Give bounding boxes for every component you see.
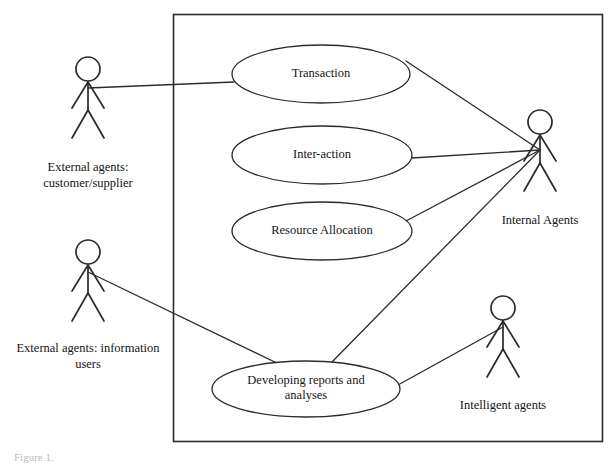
association-line-resource-allocation-to-internal xyxy=(406,150,540,221)
actor-arm-left-external-information-users xyxy=(72,265,88,291)
actor-leg-right-internal-agents xyxy=(540,163,556,191)
actor-leg-left-external-customer-supplier xyxy=(72,110,88,138)
actor-arm-right-external-customer-supplier xyxy=(88,82,104,108)
actor-head-intelligent-agents xyxy=(491,296,515,320)
actor-intelligent-agents[interactable] xyxy=(487,296,519,377)
association-line-ext-customer-to-transaction xyxy=(88,82,234,88)
actor-head-internal-agents xyxy=(528,110,552,134)
actor-head-external-information-users xyxy=(76,240,100,264)
use-case-ellipse-resource-allocation[interactable] xyxy=(232,202,412,260)
figure-caption: Figure 1. xyxy=(14,451,54,463)
actor-leg-left-internal-agents xyxy=(524,163,540,191)
association-line-ext-info-users-to-developing-reports xyxy=(88,272,283,366)
use-case-ellipse-interaction[interactable] xyxy=(232,126,412,184)
actor-leg-right-intelligent-agents xyxy=(503,349,519,377)
actor-leg-left-intelligent-agents xyxy=(487,349,503,377)
actor-leg-left-external-information-users xyxy=(72,293,88,321)
use-case-ellipse-developing-reports[interactable] xyxy=(212,361,400,417)
actor-arm-right-intelligent-agents xyxy=(503,321,519,347)
actor-external-information-users[interactable] xyxy=(72,240,104,321)
actor-arm-right-internal-agents xyxy=(540,135,556,161)
association-line-transaction-to-internal xyxy=(406,61,540,150)
actor-head-external-customer-supplier xyxy=(76,57,100,81)
actor-leg-right-external-information-users xyxy=(88,293,104,321)
use-case-ellipses xyxy=(212,45,412,417)
actor-external-customer-supplier[interactable] xyxy=(72,57,104,138)
actor-arm-left-external-customer-supplier xyxy=(72,82,88,108)
use-case-ellipse-transaction[interactable] xyxy=(232,45,410,103)
association-line-interaction-to-internal xyxy=(412,150,540,158)
actor-leg-right-external-customer-supplier xyxy=(88,110,104,138)
